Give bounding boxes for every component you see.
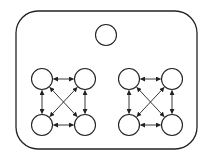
left-cluster-node-bl: [32, 115, 53, 136]
left-cluster-node-br: [75, 115, 96, 136]
right-cluster-node-tr: [162, 69, 183, 90]
right-cluster-node-tl: [119, 69, 140, 90]
diagram-svg: [0, 0, 209, 161]
right-cluster-node-bl: [119, 115, 140, 136]
left-cluster-node-tr: [75, 69, 96, 90]
left-cluster-node-tl: [32, 69, 53, 90]
right-cluster-node-br: [162, 115, 183, 136]
diagram-canvas: [0, 0, 209, 161]
top-node: [96, 25, 117, 46]
